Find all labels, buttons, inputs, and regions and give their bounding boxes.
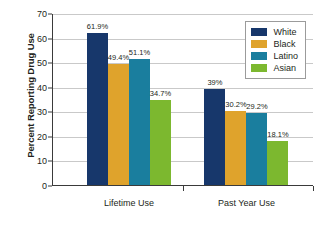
bar-black-past-year-use[interactable]: 30.2% xyxy=(225,14,246,185)
x-category-label: Past Year Use xyxy=(218,198,275,208)
chart-legend: WhiteBlackLatinoAsian xyxy=(245,21,306,79)
bar-rect[interactable] xyxy=(204,89,225,185)
bar-chart: Percent Reporting Drug Use 0102030405060… xyxy=(0,0,334,228)
legend-label: Latino xyxy=(273,51,298,61)
bar-rect[interactable] xyxy=(108,64,129,185)
bar-value-label: 39% xyxy=(207,78,222,87)
legend-item-white[interactable]: White xyxy=(251,26,298,38)
bar-value-label: 34.7% xyxy=(150,89,171,98)
y-tick-label: 0 xyxy=(42,181,47,191)
bar-rect[interactable] xyxy=(150,100,171,185)
y-tick-label: 20 xyxy=(37,132,47,142)
bar-value-label: 29.2% xyxy=(246,102,267,111)
x-tick-mark xyxy=(313,186,314,191)
bar-value-label: 61.9% xyxy=(87,22,108,31)
x-tick-mark xyxy=(183,186,184,191)
legend-swatch-icon xyxy=(251,28,267,36)
legend-label: Asian xyxy=(273,63,296,73)
legend-label: Black xyxy=(273,39,295,49)
bar-value-label: 30.2% xyxy=(225,100,246,109)
bar-rect[interactable] xyxy=(267,141,288,185)
bar-asian-lifetime-use[interactable]: 34.7% xyxy=(150,14,171,185)
y-tick-label: 10 xyxy=(37,156,47,166)
bar-value-label: 51.1% xyxy=(129,48,150,57)
legend-item-asian[interactable]: Asian xyxy=(251,62,298,74)
bar-latino-lifetime-use[interactable]: 51.1% xyxy=(129,14,150,185)
legend-swatch-icon xyxy=(251,64,267,72)
bar-value-label: 18.1% xyxy=(267,130,288,139)
y-tick-label: 50 xyxy=(37,58,47,68)
legend-label: White xyxy=(273,27,296,37)
bar-black-lifetime-use[interactable]: 49.4% xyxy=(108,14,129,185)
bar-white-past-year-use[interactable]: 39% xyxy=(204,14,225,185)
bar-rect[interactable] xyxy=(129,59,150,185)
y-tick-label: 60 xyxy=(37,34,47,44)
y-tick-label: 70 xyxy=(37,9,47,19)
legend-swatch-icon xyxy=(251,40,267,48)
bar-rect[interactable] xyxy=(246,113,267,185)
y-tick-label: 40 xyxy=(37,83,47,93)
y-tick-label: 30 xyxy=(37,107,47,117)
bar-white-lifetime-use[interactable]: 61.9% xyxy=(87,14,108,185)
bar-rect[interactable] xyxy=(225,111,246,185)
x-category-label: Lifetime Use xyxy=(104,198,154,208)
bar-value-label: 49.4% xyxy=(108,53,129,62)
plot-area: 010203040506070 61.9%49.4%51.1%34.7%39%3… xyxy=(52,14,313,186)
legend-item-black[interactable]: Black xyxy=(251,38,298,50)
bar-group: 61.9%49.4%51.1%34.7% xyxy=(87,14,171,185)
y-axis-title: Percent Reporting Drug Use xyxy=(25,11,36,181)
bar-rect[interactable] xyxy=(87,33,108,185)
legend-item-latino[interactable]: Latino xyxy=(251,50,298,62)
legend-swatch-icon xyxy=(251,52,267,60)
